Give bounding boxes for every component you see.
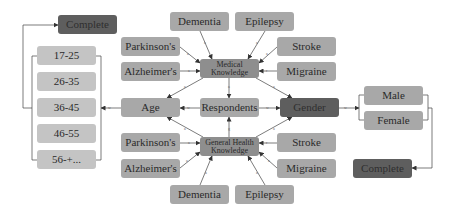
age-group-36-45: 36-45	[37, 98, 96, 117]
age-group-26-35: 26-35	[37, 72, 96, 91]
gender-female-node: Female	[364, 111, 423, 130]
svg-text:w: w	[266, 105, 269, 110]
svg-text:r: r	[266, 68, 268, 73]
svg-text:a: a	[268, 158, 270, 163]
svg-text:a: a	[184, 126, 186, 131]
svg-text:a: a	[273, 126, 275, 131]
svg-text:a: a	[204, 40, 206, 45]
flow-diagram: a a a a a r a a a w w w w a g a a a r a …	[0, 0, 455, 214]
complete-left-node: Complete	[58, 15, 117, 34]
svg-text:a: a	[256, 40, 258, 45]
age-node: Age	[121, 98, 180, 117]
general-dementia-node: Dementia	[170, 185, 229, 204]
svg-text:a: a	[184, 84, 186, 89]
complete-right-node: Complete	[353, 159, 412, 178]
svg-text:w: w	[108, 105, 111, 110]
general-epilepsy-node: Epilepsy	[235, 185, 294, 204]
svg-text:a: a	[188, 68, 190, 73]
medical-migraine-node: Migraine	[277, 62, 336, 81]
svg-text:a: a	[273, 84, 275, 89]
general-stroke-node: Stroke	[277, 133, 336, 152]
age-group-56-plus: 56-+...	[37, 150, 96, 169]
medical-parkinsons-node: Parkinson's	[121, 37, 180, 56]
svg-text:g: g	[228, 126, 230, 131]
gender-node: Gender	[280, 98, 339, 117]
svg-text:a: a	[266, 51, 268, 56]
svg-text:a: a	[205, 170, 207, 175]
age-group-17-25: 17-25	[37, 46, 96, 65]
svg-text:r: r	[266, 140, 268, 145]
medical-stroke-node: Stroke	[277, 37, 336, 56]
medical-alzheimers-node: Alzheimer's	[121, 62, 180, 81]
medical-knowledge-node: Medical Knowledge	[200, 59, 259, 78]
svg-text:a: a	[186, 158, 188, 163]
general-alzheimers-node: Alzheimer's	[121, 159, 180, 178]
respondents-node: Respondents	[200, 98, 259, 117]
svg-text:a: a	[228, 84, 230, 89]
svg-text:w: w	[344, 105, 347, 110]
general-health-knowledge-node: General Health Knowledge	[200, 137, 259, 156]
age-group-46-55: 46-55	[37, 124, 96, 143]
svg-text:a: a	[188, 140, 190, 145]
medical-dementia-node: Dementia	[170, 12, 229, 31]
medical-epilepsy-node: Epilepsy	[235, 12, 294, 31]
svg-text:w: w	[187, 105, 190, 110]
general-migraine-node: Migraine	[277, 159, 336, 178]
svg-text:a: a	[256, 170, 258, 175]
gender-male-node: Male	[364, 86, 423, 105]
general-parkinsons-node: Parkinson's	[121, 133, 180, 152]
svg-text:a: a	[187, 51, 189, 56]
